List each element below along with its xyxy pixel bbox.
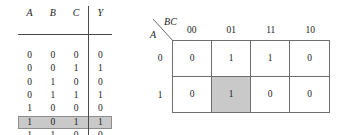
kmap-cell-a0-bc10: 0 xyxy=(290,41,329,77)
cell-c: 0 xyxy=(64,49,88,62)
kmap-cell-a0-bc00: 0 xyxy=(173,41,212,77)
truth-table: A B C Y 0 xyxy=(18,6,112,130)
table-row: 0 0 1 1 xyxy=(18,62,112,75)
cell-a: 0 xyxy=(18,62,41,75)
cell-b: 0 xyxy=(41,116,64,129)
cell-y: 1 xyxy=(88,89,112,102)
column-header-b: B xyxy=(41,6,64,21)
table-row: 0 1 1 1 xyxy=(18,89,112,102)
truth-table-and-kmap-figure: A B C Y 0 xyxy=(0,0,347,135)
cell-y: 0 xyxy=(88,49,112,62)
kmap-cell-a0-bc11: 1 xyxy=(251,41,290,77)
column-header-c: C xyxy=(64,6,88,21)
cell-a: 1 xyxy=(18,116,41,129)
cell-b: 0 xyxy=(41,62,64,75)
cell-b: 1 xyxy=(41,89,64,102)
kmap-column-header-01: 01 xyxy=(212,25,252,35)
cell-a: 0 xyxy=(18,49,41,62)
kmap-cell-a0-bc01: 1 xyxy=(212,41,251,77)
table-row: 1 0 0 0 xyxy=(18,102,112,115)
column-header-y: Y xyxy=(88,6,112,21)
cell-y: 0 xyxy=(88,129,112,135)
cell-y: 1 xyxy=(88,62,112,75)
kmap-cell-a1-bc10: 0 xyxy=(290,77,329,113)
kmap-row-headers: 0 1 xyxy=(150,40,170,113)
kmap-row-variable-label: A xyxy=(150,29,156,40)
cell-a: 0 xyxy=(18,89,41,102)
table-row-highlighted: 1 0 1 1 xyxy=(18,116,112,129)
cell-a: 1 xyxy=(18,102,41,115)
kmap-cell-a1-bc00: 0 xyxy=(173,77,212,113)
cell-y: 0 xyxy=(88,76,112,89)
kmap-column-header-00: 00 xyxy=(172,25,212,35)
kmap-column-headers: 00 01 11 10 xyxy=(172,25,330,35)
column-header-a: A xyxy=(18,6,41,21)
table-row: 0 1 0 0 xyxy=(18,76,112,89)
cell-y: 1 xyxy=(88,116,112,129)
kmap-cell-a1-bc11: 0 xyxy=(251,77,290,113)
cell-a: 0 xyxy=(18,76,41,89)
truth-table-header-row: A B C Y xyxy=(18,6,112,21)
cell-c: 1 xyxy=(64,116,88,129)
table-row: 1 1 0 0 xyxy=(18,129,112,135)
kmap-cell-a1-bc01: 1 xyxy=(212,77,251,113)
cell-b: 1 xyxy=(41,129,64,135)
kmap-column-header-10: 10 xyxy=(291,25,331,35)
cell-b: 0 xyxy=(41,49,64,62)
cell-c: 0 xyxy=(64,129,88,135)
table-row: 0 0 0 0 xyxy=(18,49,112,62)
cell-b: 0 xyxy=(41,102,64,115)
truth-table-grid: A B C Y 0 xyxy=(18,6,112,135)
cell-c: 1 xyxy=(64,62,88,75)
cell-c: 1 xyxy=(64,89,88,102)
cell-a: 1 xyxy=(18,129,41,135)
kmap-column-header-11: 11 xyxy=(251,25,291,35)
kmap-grid: 0 1 1 0 0 1 0 0 xyxy=(172,40,330,113)
cell-b: 1 xyxy=(41,76,64,89)
kmap-row-header-1: 1 xyxy=(150,77,170,114)
kmap-row-header-0: 0 xyxy=(150,40,170,77)
cell-c: 0 xyxy=(64,76,88,89)
header-spacer xyxy=(18,35,112,49)
header-rule xyxy=(18,21,112,35)
cell-y: 0 xyxy=(88,102,112,115)
karnaugh-map: BC A 00 01 11 10 0 1 0 1 1 0 0 1 0 0 xyxy=(148,16,338,120)
cell-c: 0 xyxy=(64,102,88,115)
